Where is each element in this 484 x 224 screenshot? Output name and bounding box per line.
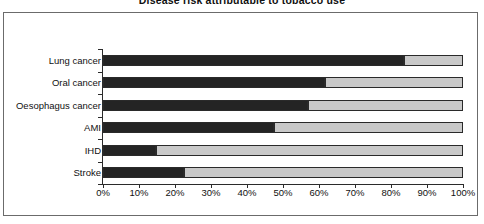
value-axis-tick-label: 0%: [96, 187, 110, 199]
chart-title: Disease risk attributable to tobacco use: [0, 0, 484, 6]
value-axis-tick-label: 90%: [417, 187, 436, 199]
category-axis-tick: [98, 117, 102, 118]
category-axis-tick: [98, 49, 102, 50]
category-label: Oesophagus cancer: [16, 100, 101, 111]
category-axis-tick: [98, 162, 102, 163]
category-label: Lung cancer: [49, 55, 101, 66]
bar-segment-remainder[interactable]: [404, 55, 463, 66]
value-axis-tick-label: 20%: [165, 187, 184, 199]
bar-segment-attributable[interactable]: [103, 77, 325, 88]
value-axis-tick-label: 60%: [309, 187, 328, 199]
bar-segment-attributable[interactable]: [103, 145, 156, 156]
bar-segment-remainder[interactable]: [184, 167, 463, 178]
category-axis-tick: [98, 184, 102, 185]
bar-segment-attributable[interactable]: [103, 100, 308, 111]
bar-segment-remainder[interactable]: [308, 100, 463, 111]
category-axis-tick: [98, 72, 102, 73]
category-label: AMI: [84, 122, 101, 133]
category-label: Oral cancer: [52, 77, 101, 88]
bar-segment-attributable[interactable]: [103, 167, 184, 178]
bar-segment-remainder[interactable]: [325, 77, 463, 88]
value-axis-tick-label: 10%: [129, 187, 148, 199]
value-axis-tick-label: 80%: [381, 187, 400, 199]
value-axis-tick-label: 30%: [201, 187, 220, 199]
plot-area: [102, 49, 464, 184]
value-axis-tick-label: 50%: [273, 187, 292, 199]
value-axis-tick-label: 70%: [345, 187, 364, 199]
category-label: Stroke: [74, 167, 101, 178]
bar-segment-attributable[interactable]: [103, 55, 404, 66]
category-label: IHD: [85, 145, 101, 156]
value-axis-labels: 0%10%20%30%40%50%60%70%80%90%100%: [102, 187, 472, 201]
bar-segment-attributable[interactable]: [103, 122, 274, 133]
category-axis-line: [102, 49, 103, 184]
chart-frame: Lung cancerOral cancerOesophagus cancerA…: [3, 12, 478, 216]
category-axis-tick: [98, 139, 102, 140]
bar-segment-remainder[interactable]: [156, 145, 463, 156]
bar-segment-remainder[interactable]: [274, 122, 463, 133]
category-axis-labels: Lung cancerOral cancerOesophagus cancerA…: [4, 49, 101, 184]
value-axis-tick-label: 40%: [237, 187, 256, 199]
category-axis-tick: [98, 94, 102, 95]
value-axis-tick-label: 100%: [451, 187, 475, 199]
